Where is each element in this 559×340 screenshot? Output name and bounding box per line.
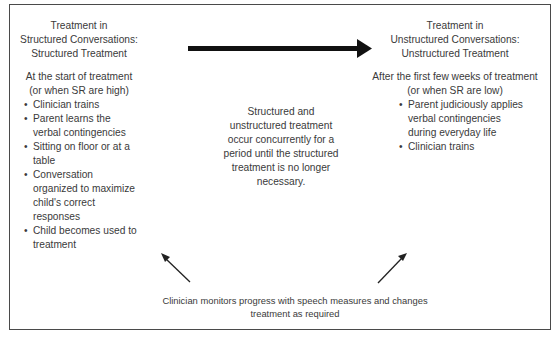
structured-treatment-panel: Treatment in Structured Conversations: S… xyxy=(18,19,140,252)
title-line: Structured Conversations: xyxy=(18,33,140,47)
main-arrow-icon xyxy=(188,39,372,58)
list-item: Parent judiciously applies verbal contin… xyxy=(399,98,529,140)
structured-treatment-list: Clinician trains Parent learns the verba… xyxy=(24,98,140,252)
feedback-arrow-left-icon xyxy=(161,253,190,282)
list-item: Sitting on floor or at a table xyxy=(24,140,140,168)
title-line: Unstructured Conversations: xyxy=(368,33,542,47)
condition-line: (or when SR are low) xyxy=(368,84,542,98)
unstructured-treatment-list: Parent judiciously applies verbal contin… xyxy=(399,98,529,154)
title-line: Unstructured Treatment xyxy=(368,47,542,61)
structured-treatment-title: Treatment in Structured Conversations: S… xyxy=(18,19,140,61)
condition-line: (or when SR are high) xyxy=(18,84,140,98)
condition-line: After the first few weeks of treatment xyxy=(368,70,542,84)
unstructured-treatment-condition: After the first few weeks of treatment (… xyxy=(368,70,542,98)
list-item: Conversation organized to maximize child… xyxy=(24,168,140,224)
list-item: Parent learns the verbal contingencies xyxy=(24,112,140,140)
condition-line: At the start of treatment xyxy=(18,70,140,84)
monitoring-note: Clinician monitors progress with speech … xyxy=(155,294,435,320)
list-item: Child becomes used to treatment xyxy=(24,224,140,252)
title-line: Treatment in xyxy=(18,19,140,33)
unstructured-treatment-panel: Treatment in Unstructured Conversations:… xyxy=(368,19,542,154)
list-item: Clinician trains xyxy=(399,140,529,154)
list-item: Clinician trains xyxy=(24,98,140,112)
feedback-arrow-right-icon xyxy=(378,253,407,283)
title-line: Treatment in xyxy=(368,19,542,33)
concurrent-treatment-note: Structured and unstructured treatment oc… xyxy=(220,105,342,189)
unstructured-treatment-title: Treatment in Unstructured Conversations:… xyxy=(368,19,542,61)
structured-treatment-condition: At the start of treatment (or when SR ar… xyxy=(18,70,140,98)
title-line: Structured Treatment xyxy=(18,47,140,61)
